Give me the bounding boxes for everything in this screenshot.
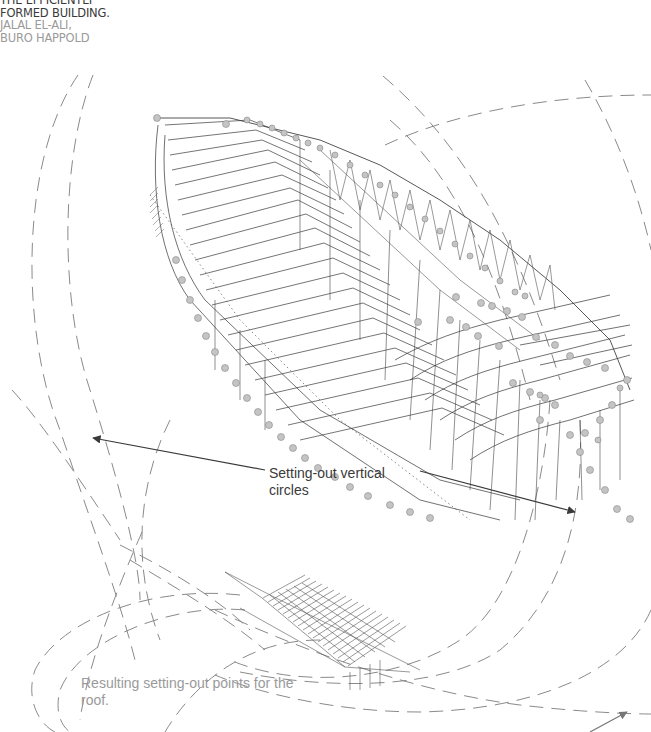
resulting-points-caption: Resulting setting-out points for the roo…: [81, 675, 293, 709]
corner-arrow: [590, 712, 627, 732]
setting-out-line-2: circles: [269, 482, 385, 499]
roof-grid: [225, 572, 420, 690]
setting-out-line-1: Setting-out vertical: [269, 465, 385, 482]
setting-out-annotation: Setting-out vertical circles: [269, 465, 385, 499]
building-diagram: [0, 0, 651, 732]
resulting-line-1: Resulting setting-out points for the: [81, 675, 293, 692]
resulting-line-2: roof.: [81, 692, 293, 709]
building-wireframe: [150, 118, 634, 520]
